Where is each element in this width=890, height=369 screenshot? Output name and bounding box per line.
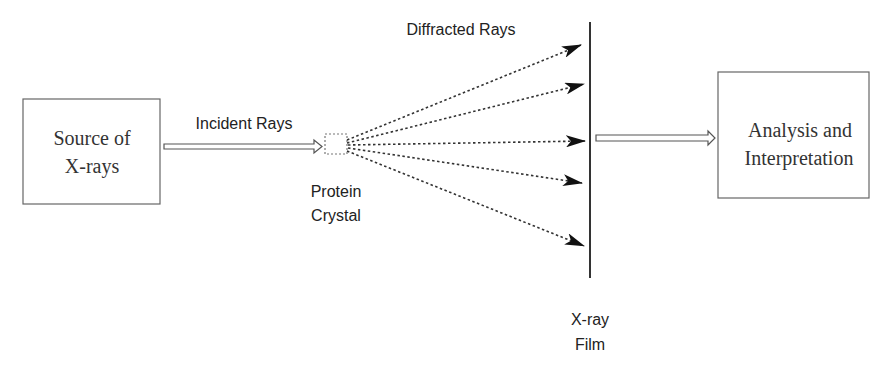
source-label-line2: X-rays: [65, 155, 120, 178]
incident-rays-label: Incident Rays: [196, 115, 293, 132]
source-label-line1: Source of: [53, 127, 131, 149]
analysis-node: Analysis and Interpretation: [718, 72, 869, 198]
crystal-label-line2: Crystal: [311, 207, 361, 224]
diffracted-rays: [347, 45, 585, 246]
source-box: [23, 99, 160, 204]
analysis-arrow: [596, 131, 715, 145]
diagram-canvas: Source of X-rays Incident Rays Protein C…: [0, 0, 890, 369]
diffracted-ray-2: [347, 84, 584, 143]
film-label-line2: Film: [575, 336, 605, 353]
diffracted-rays-label: Diffracted Rays: [406, 21, 515, 38]
diffracted-ray-5: [347, 151, 584, 246]
analysis-label-line2: Interpretation: [745, 147, 854, 170]
diffracted-ray-1: [347, 45, 581, 140]
diffracted-ray-4: [348, 148, 582, 183]
source-node: Source of X-rays: [23, 99, 160, 204]
incident-rays-arrow: Incident Rays: [164, 115, 322, 153]
film-label-line1: X-ray: [571, 311, 609, 328]
film-node: X-ray Film: [571, 22, 609, 353]
analysis-label-line1: Analysis and: [748, 119, 852, 142]
diffracted-ray-3: [348, 141, 585, 145]
crystal-box: [325, 134, 347, 154]
crystal-label-line1: Protein: [311, 183, 362, 200]
